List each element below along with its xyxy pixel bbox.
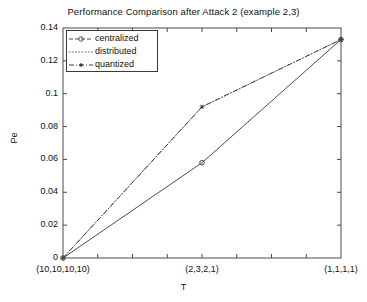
series-line-centralized xyxy=(63,40,341,259)
right-ticks xyxy=(337,61,341,225)
legend-label-quantized: quantized xyxy=(95,60,134,69)
legend-swatch-quantized xyxy=(67,59,95,71)
legend-swatch-distributed xyxy=(67,46,95,58)
legend-item-distributed: distributed xyxy=(67,45,159,58)
series-line-quantized xyxy=(63,40,341,259)
legend: centralized distributed quantized xyxy=(66,30,158,72)
series-line-distributed xyxy=(63,40,341,259)
legend-label-centralized: centralized xyxy=(95,34,139,43)
legend-swatch-centralized xyxy=(67,33,95,45)
legend-label-distributed: distributed xyxy=(95,47,137,56)
left-ticks xyxy=(63,61,67,225)
bottom-ticks xyxy=(98,254,307,258)
plot-area xyxy=(0,0,367,302)
legend-item-quantized: quantized xyxy=(67,58,159,71)
chart-figure: Performance Comparison after Attack 2 (e… xyxy=(0,0,367,302)
legend-item-centralized: centralized xyxy=(67,32,159,45)
